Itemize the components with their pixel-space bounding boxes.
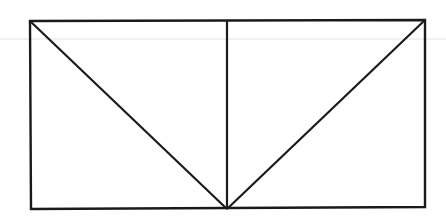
geometric-diagram	[0, 0, 446, 218]
left-diagonal	[30, 21, 227, 209]
right-diagonal	[227, 20, 425, 209]
